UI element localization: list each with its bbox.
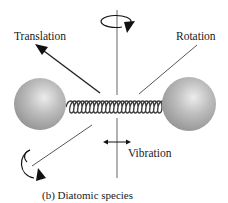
rotation-label: Rotation bbox=[176, 31, 216, 43]
vibration-label: Vibration bbox=[128, 148, 171, 160]
rotation-bottom-left-icon bbox=[21, 150, 46, 181]
left-atom bbox=[14, 78, 66, 130]
diagonal-axis-line bbox=[32, 125, 92, 166]
translation-label: Translation bbox=[14, 31, 66, 43]
right-atom bbox=[162, 77, 216, 131]
rotation-top-icon bbox=[101, 15, 135, 33]
spring-bond bbox=[66, 101, 166, 113]
figure-caption: (b) Diatomic species bbox=[42, 190, 133, 201]
